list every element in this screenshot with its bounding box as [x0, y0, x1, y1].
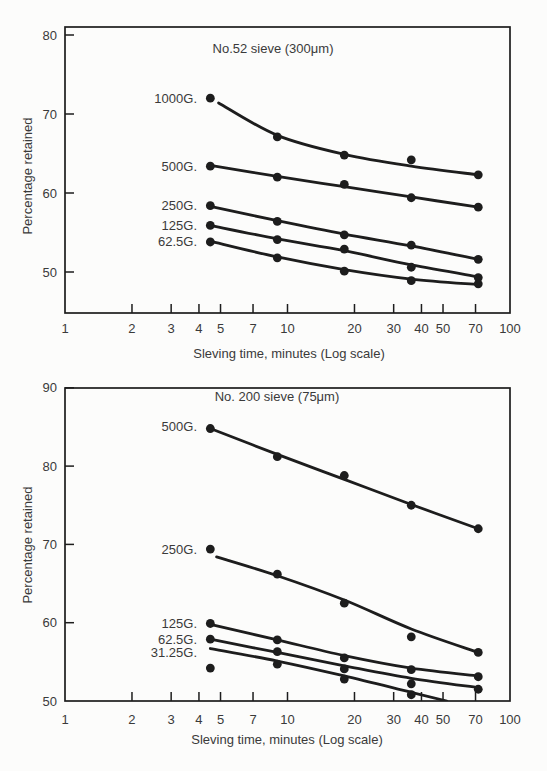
data-point-500g	[273, 452, 282, 461]
x-axis-label: Sleving time, minutes (Log scale)	[191, 732, 382, 747]
series-label-1000g: 1000G.	[154, 91, 197, 106]
y-tick-label: 80	[43, 459, 57, 474]
data-point-500g	[273, 173, 282, 182]
data-point-250g	[206, 201, 215, 210]
chart-title: No. 200 sieve (75μm)	[215, 389, 340, 404]
y-tick-label: 80	[43, 28, 57, 43]
data-point-1000g	[340, 151, 349, 160]
data-point-1000g	[273, 133, 282, 142]
y-tick-label: 70	[43, 537, 57, 552]
x-tick-label: 3	[168, 321, 175, 336]
data-point-625g	[407, 276, 416, 285]
data-point-500g	[340, 180, 349, 189]
x-tick-label: 1	[61, 321, 68, 336]
data-point-250g	[407, 632, 416, 641]
sieve-analysis-figure: 12345710203040507010050607080No.52 sieve…	[0, 0, 547, 771]
data-point-250g	[474, 255, 483, 264]
data-point-500g	[474, 203, 483, 212]
series-label-500g: 500G.	[162, 159, 197, 174]
series-label-3125g: 31.25G.	[151, 645, 197, 660]
data-point-625g	[340, 664, 349, 673]
series-label-625g: 62.5G.	[158, 234, 197, 249]
x-tick-label: 40	[414, 712, 428, 727]
data-point-250g	[407, 241, 416, 250]
x-tick-label: 5	[217, 321, 224, 336]
x-tick-label: 4	[195, 712, 202, 727]
x-tick-label: 20	[347, 712, 361, 727]
data-point-125g	[407, 263, 416, 272]
data-point-1000g	[474, 170, 483, 179]
data-point-500g	[407, 501, 416, 510]
data-point-625g	[474, 685, 483, 694]
y-tick-label: 60	[43, 186, 57, 201]
x-tick-label: 50	[436, 321, 450, 336]
x-tick-label: 7	[249, 712, 256, 727]
x-tick-label: 50	[436, 712, 450, 727]
data-point-625g	[206, 635, 215, 644]
data-point-250g	[206, 545, 215, 554]
y-tick-label: 50	[43, 694, 57, 709]
data-point-500g	[474, 524, 483, 533]
data-point-3125g	[407, 690, 416, 699]
data-point-500g	[407, 193, 416, 202]
y-tick-label: 60	[43, 615, 57, 630]
y-tick-label: 50	[43, 265, 57, 280]
x-tick-label: 4	[195, 321, 202, 336]
data-point-125g	[273, 636, 282, 645]
x-tick-label: 100	[499, 321, 521, 336]
y-axis-label: Percentage retained	[20, 486, 35, 603]
data-point-3125g	[206, 664, 215, 673]
x-tick-label: 10	[280, 321, 294, 336]
data-point-1000g	[206, 94, 215, 103]
x-tick-label: 30	[386, 712, 400, 727]
x-tick-label: 1	[61, 712, 68, 727]
data-point-625g	[474, 279, 483, 288]
data-point-625g	[273, 253, 282, 262]
x-tick-label: 2	[128, 321, 135, 336]
series-line-1000g	[219, 103, 479, 175]
series-label-250g: 250G.	[162, 542, 197, 557]
data-point-125g	[206, 619, 215, 628]
x-tick-label: 7	[249, 321, 256, 336]
data-point-625g	[273, 647, 282, 656]
data-point-625g	[407, 679, 416, 688]
series-label-500g: 500G.	[162, 419, 197, 434]
series-label-125g: 125G.	[162, 218, 197, 233]
y-tick-label: 90	[43, 380, 57, 395]
data-point-250g	[340, 230, 349, 239]
x-tick-label: 20	[347, 321, 361, 336]
x-tick-label: 3	[168, 712, 175, 727]
data-point-500g	[340, 471, 349, 480]
series-label-250g: 250G.	[162, 198, 197, 213]
x-axis-label: Sleving time, minutes (Log scale)	[193, 346, 384, 361]
x-tick-label: 70	[468, 321, 482, 336]
data-point-250g	[340, 599, 349, 608]
data-point-3125g	[340, 675, 349, 684]
data-point-125g	[340, 654, 349, 663]
data-point-3125g	[273, 660, 282, 669]
data-point-125g	[206, 221, 215, 230]
x-tick-label: 2	[128, 712, 135, 727]
x-tick-label: 40	[414, 321, 428, 336]
figure-svg: 12345710203040507010050607080No.52 sieve…	[0, 0, 547, 771]
data-point-500g	[206, 424, 215, 433]
series-label-125g: 125G.	[162, 616, 197, 631]
data-point-625g	[340, 267, 349, 276]
x-tick-label: 100	[499, 712, 521, 727]
data-point-125g	[474, 672, 483, 681]
data-point-125g	[273, 235, 282, 244]
x-tick-label: 5	[217, 712, 224, 727]
data-point-625g	[206, 238, 215, 247]
data-point-250g	[273, 217, 282, 226]
data-point-1000g	[407, 155, 416, 164]
data-point-250g	[474, 648, 483, 657]
data-point-500g	[206, 162, 215, 171]
data-point-250g	[273, 570, 282, 579]
chart-title: No.52 sieve (300μm)	[213, 41, 334, 56]
x-tick-label: 10	[280, 712, 294, 727]
y-tick-label: 70	[43, 107, 57, 122]
data-point-125g	[340, 245, 349, 254]
y-axis-label: Percentage retained	[20, 117, 35, 234]
x-tick-label: 30	[386, 321, 400, 336]
data-point-125g	[407, 665, 416, 674]
